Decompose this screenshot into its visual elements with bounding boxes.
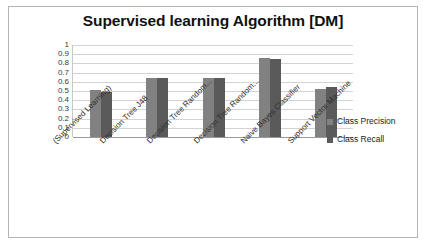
y-axis-tick: 0.8 <box>43 59 69 67</box>
legend-item[interactable]: Class Recall <box>327 135 413 144</box>
chart-legend: Class PrecisionClass Recall <box>327 117 413 153</box>
axis-baseline <box>73 137 353 138</box>
y-axis-tick: 1 <box>43 41 69 49</box>
y-axis-tick: 0.6 <box>43 78 69 86</box>
y-axis-tick: 0.7 <box>43 69 69 77</box>
legend-label: Class Precision <box>337 117 396 126</box>
legend-swatch-icon <box>327 119 333 125</box>
y-axis-tick: 0.5 <box>43 87 69 95</box>
y-axis-tick: 0.4 <box>43 96 69 104</box>
legend-swatch-icon <box>327 137 333 143</box>
legend-label: Class Recall <box>337 135 384 144</box>
x-axis-category-labels: (Supervised Learning)Decision Tree J48De… <box>43 139 363 233</box>
y-axis-tick: 0.9 <box>43 50 69 58</box>
chart-title: Supervised learning Algorithm [DM] <box>9 12 417 30</box>
y-axis-tick: 0.2 <box>43 115 69 123</box>
chart-frame: Supervised learning Algorithm [DM] 10.90… <box>8 6 418 238</box>
y-axis-tick: 0.3 <box>43 105 69 113</box>
legend-item[interactable]: Class Precision <box>327 117 413 126</box>
